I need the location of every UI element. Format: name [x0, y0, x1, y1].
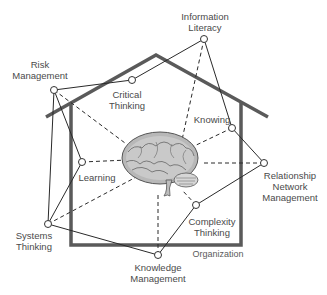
label-risk-management: RiskManagement — [12, 59, 67, 81]
label-line: Thinking — [189, 227, 236, 238]
label-line: Learning — [79, 172, 116, 183]
label-line: Complexity — [189, 216, 236, 227]
label-learning: Learning — [79, 172, 116, 183]
dashed-edge-learning — [82, 160, 128, 162]
dashed-edge-knowing — [190, 128, 232, 148]
node-complexity-thinking — [193, 202, 200, 209]
node-risk-management — [51, 87, 58, 94]
label-line: Literacy — [181, 22, 229, 33]
node-relationship-network-management — [261, 160, 268, 167]
label-line: Management — [130, 273, 185, 284]
label-knowing: Knowing — [194, 114, 230, 125]
node-knowledge-management — [155, 252, 162, 259]
roof — [46, 55, 268, 117]
label-relationship-network-management: RelationshipNetworkManagement — [262, 170, 317, 203]
label-line: Information — [181, 11, 229, 22]
label-complexity-thinking: ComplexityThinking — [189, 216, 236, 238]
label-line: Systems — [16, 230, 52, 241]
node-critical-thinking — [129, 77, 136, 84]
label-line: Management — [262, 192, 317, 203]
edge-relationship-network-management-complexity-thinking — [196, 163, 264, 205]
edge-systems-thinking-learning — [48, 162, 82, 224]
label-line: Thinking — [16, 241, 52, 252]
organization-label: Organization — [192, 249, 243, 260]
edge-risk-management-systems-thinking — [48, 90, 54, 224]
label-line: Knowing — [194, 114, 230, 125]
label-knowledge-management: KnowledgeManagement — [130, 262, 185, 284]
edge-knowledge-management-systems-thinking — [48, 224, 158, 255]
label-line: Management — [12, 70, 67, 81]
node-information-literacy — [201, 36, 208, 43]
label-systems-thinking: SystemsThinking — [16, 230, 52, 252]
node-knowing — [229, 125, 236, 132]
edge-knowing-relationship-network-management — [232, 128, 264, 163]
label-line: Relationship — [262, 170, 317, 181]
label-line: Thinking — [109, 100, 145, 111]
label-information-literacy: InformationLiteracy — [181, 11, 229, 33]
label-line: Knowledge — [130, 262, 185, 273]
label-line: Network — [262, 181, 317, 192]
node-systems-thinking — [45, 221, 52, 228]
label-line: Risk — [12, 59, 67, 70]
label-critical-thinking: CriticalThinking — [109, 89, 145, 111]
node-learning — [79, 159, 86, 166]
brain-icon — [122, 132, 198, 196]
label-line: Critical — [109, 89, 145, 100]
